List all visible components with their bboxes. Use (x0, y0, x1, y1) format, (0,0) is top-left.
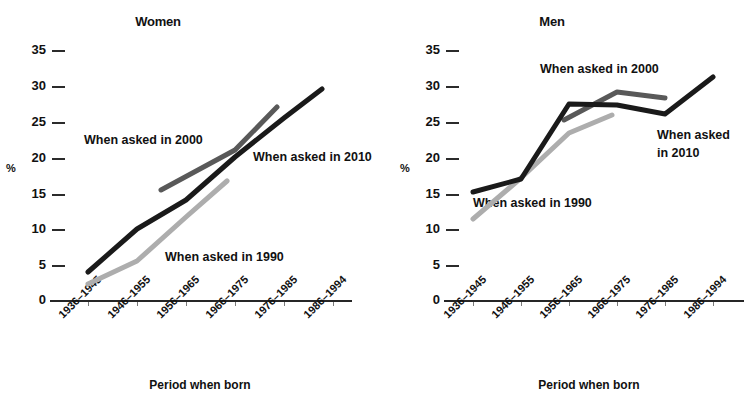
series-lines-men (372, 0, 744, 406)
series-lines-women (0, 0, 372, 406)
line-series-2010-men (473, 77, 713, 192)
two-panel-line-chart: Women % 35 30 25 20 15 10 5 0 1936–1945 … (0, 0, 744, 406)
chart-panel-men: Men % 35 30 25 20 15 10 5 0 1936–1945 19… (372, 0, 744, 406)
line-series-1990-women (88, 181, 227, 284)
chart-panel-women: Women % 35 30 25 20 15 10 5 0 1936–1945 … (0, 0, 372, 406)
line-series-1990-men (473, 115, 612, 219)
line-series-2000-women (161, 107, 277, 190)
line-series-2010-women (88, 89, 322, 272)
